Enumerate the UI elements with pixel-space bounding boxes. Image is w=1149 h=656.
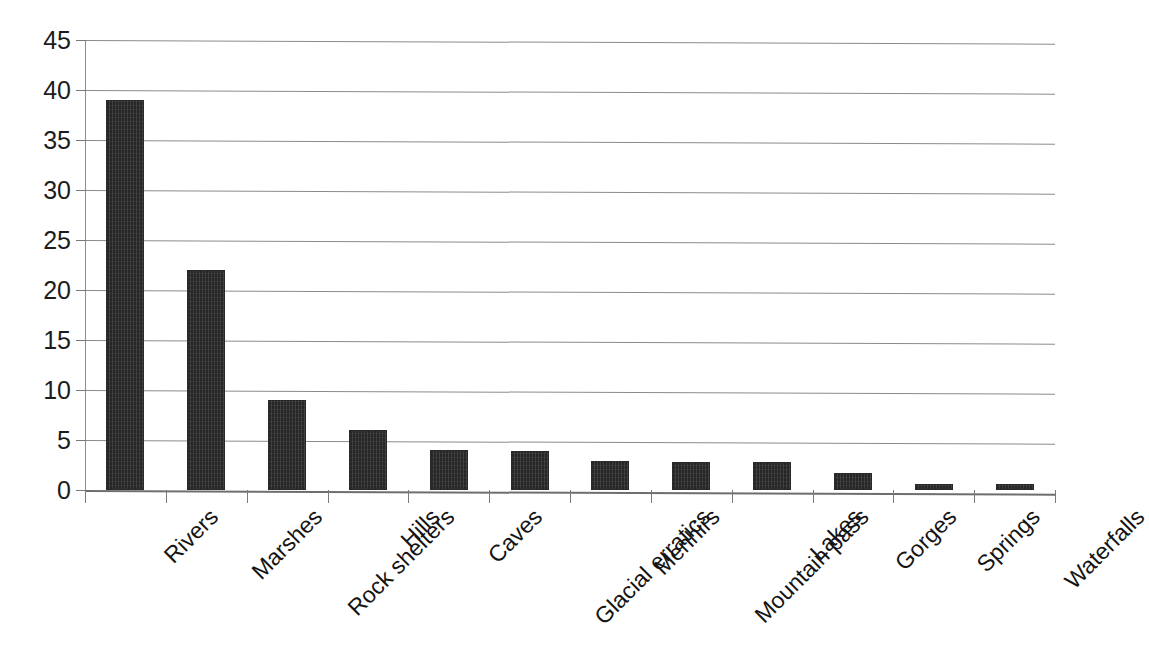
x-axis-tick (974, 490, 975, 503)
bar (834, 473, 872, 490)
bar (430, 450, 468, 490)
y-axis-tick-label: 0 (57, 478, 71, 503)
y-axis-tick-label: 35 (43, 128, 71, 153)
y-axis-tick (76, 390, 86, 391)
x-axis-tick (408, 490, 409, 503)
y-axis-tick (76, 140, 86, 141)
plot-area: 454035302520151050 (85, 40, 1055, 490)
y-axis-tick (76, 240, 86, 241)
y-axis-tick (76, 340, 86, 341)
x-axis-category-label: Waterfalls (1060, 505, 1148, 593)
gridline (85, 340, 1055, 345)
bar (591, 461, 629, 490)
y-axis-tick (76, 40, 86, 41)
bar (187, 270, 225, 490)
x-axis-tick (813, 490, 814, 503)
x-axis-tick (651, 490, 652, 503)
y-axis-tick (76, 90, 86, 91)
gridline (85, 140, 1055, 145)
y-axis-tick-label: 30 (43, 178, 71, 203)
x-axis-category-label: Caves (484, 505, 546, 567)
gridline (85, 240, 1055, 245)
y-axis-tick (76, 290, 86, 291)
y-axis-tick-label: 25 (43, 228, 71, 253)
x-axis-category-label: Marshes (248, 505, 327, 584)
bar (996, 484, 1034, 490)
x-axis-category-label: Gorges (891, 505, 961, 575)
bar (106, 100, 144, 490)
x-axis-tick (893, 490, 894, 503)
x-axis-category-label: Rivers (160, 505, 222, 567)
bar (672, 462, 710, 490)
y-axis-tick-label: 5 (57, 428, 71, 453)
x-axis-tick (166, 490, 167, 503)
y-axis-tick-label: 45 (43, 28, 71, 53)
bar (268, 400, 306, 490)
gridline (85, 190, 1055, 195)
gridline (85, 390, 1055, 395)
y-axis-tick (76, 440, 86, 441)
x-axis-tick (1055, 490, 1056, 503)
gridline (85, 290, 1055, 295)
x-axis-tick (85, 490, 86, 503)
y-axis-tick (76, 190, 86, 191)
x-axis-tick (570, 490, 571, 503)
bar (753, 462, 791, 490)
bar (349, 430, 387, 490)
x-axis-tick (247, 490, 248, 503)
y-axis-tick-label: 10 (43, 378, 71, 403)
y-axis-tick-label: 20 (43, 278, 71, 303)
y-axis-line (85, 40, 86, 490)
y-axis-tick-label: 40 (43, 78, 71, 103)
bar (511, 451, 549, 490)
bar (915, 484, 953, 490)
gridline (85, 440, 1055, 445)
x-axis-category-label: Springs (973, 505, 1044, 576)
gridline (85, 90, 1055, 95)
y-axis-tick-label: 15 (43, 328, 71, 353)
gridline (85, 40, 1055, 45)
x-axis-category-labels: RiversMarshesRock sheltersHillsCavesGlac… (85, 505, 1055, 645)
x-axis-tick (328, 490, 329, 503)
x-axis-tick (732, 490, 733, 503)
x-axis-tick (489, 490, 490, 503)
